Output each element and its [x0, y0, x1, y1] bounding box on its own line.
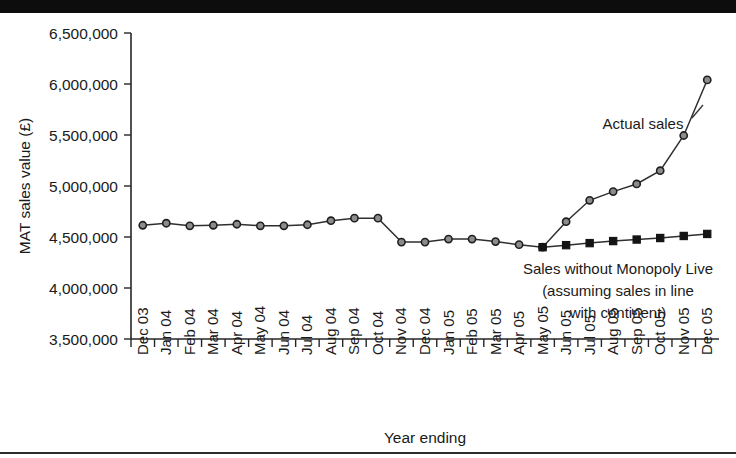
data-point-marker — [280, 222, 287, 229]
x-tick-label: Jun 04 — [275, 310, 292, 355]
y-tick-label: 3,500,000 — [49, 331, 118, 348]
annotation-counterfactual-line-3: with continent) — [569, 304, 667, 321]
x-tick-label: Apr 05 — [510, 311, 527, 355]
data-point-marker — [680, 232, 687, 239]
series-lines — [143, 80, 707, 247]
data-point-marker — [586, 197, 593, 204]
data-point-marker — [351, 215, 358, 222]
data-point-marker — [257, 222, 264, 229]
data-point-marker — [186, 222, 193, 229]
x-tick-label: Sep 04 — [345, 307, 362, 355]
x-tick-label: Mar 05 — [487, 308, 504, 355]
data-point-marker — [704, 76, 711, 83]
y-tick-label: 5,000,000 — [49, 178, 118, 195]
bottom-rule — [0, 452, 736, 454]
data-point-marker — [163, 220, 170, 227]
data-point-marker — [610, 188, 617, 195]
y-tick-label: 4,000,000 — [49, 280, 118, 297]
x-tick-label: Nov 04 — [392, 307, 409, 355]
x-tick-label: Feb 04 — [181, 308, 198, 355]
data-point-marker — [421, 239, 428, 246]
y-tick-label: 6,500,000 — [49, 25, 118, 42]
x-tick-label: Dec 03 — [134, 307, 151, 355]
data-point-marker — [374, 215, 381, 222]
data-point-marker — [139, 222, 146, 229]
chart-figure: 3,500,0004,000,0004,500,0005,000,0005,50… — [0, 0, 736, 458]
y-axis-title: MAT sales value (£) — [16, 118, 33, 254]
data-point-marker — [304, 221, 311, 228]
y-tick-label: 6,000,000 — [49, 76, 118, 93]
x-tick-label: May 05 — [534, 306, 551, 355]
data-point-marker — [586, 240, 593, 247]
y-tick-label: 5,500,000 — [49, 127, 118, 144]
annotation-counterfactual-line-2: (assuming sales in line — [542, 282, 694, 299]
data-point-marker — [398, 239, 405, 246]
x-tick-label: Nov 05 — [675, 307, 692, 355]
data-point-marker — [633, 236, 640, 243]
x-tick-label: Mar 04 — [204, 308, 221, 355]
annotation-actual-sales: Actual sales — [603, 115, 684, 132]
x-tick-label: Dec 05 — [698, 307, 715, 355]
x-tick-label: Jan 04 — [157, 310, 174, 355]
x-tick-label: Aug 04 — [322, 307, 339, 355]
data-point-marker — [539, 244, 546, 251]
data-point-marker — [468, 235, 475, 242]
y-axis-tick-labels: 3,500,0004,000,0004,500,0005,000,0005,50… — [49, 25, 118, 348]
y-axis-ticks — [124, 33, 131, 339]
chart-plot-area: 3,500,0004,000,0004,500,0005,000,0005,50… — [0, 0, 736, 458]
x-tick-label: May 04 — [251, 306, 268, 355]
x-tick-label: Jul 04 — [298, 315, 315, 355]
data-point-marker — [327, 217, 334, 224]
data-point-marker — [445, 235, 452, 242]
data-point-marker — [515, 241, 522, 248]
y-tick-label: 4,500,000 — [49, 229, 118, 246]
x-tick-label: Feb 05 — [463, 308, 480, 355]
data-point-marker — [233, 221, 240, 228]
data-point-marker — [563, 242, 570, 249]
series-line-circle — [143, 80, 707, 247]
data-point-marker — [633, 180, 640, 187]
data-point-marker — [657, 167, 664, 174]
x-tick-label: Oct 04 — [369, 311, 386, 355]
data-point-marker — [610, 237, 617, 244]
x-tick-label: Jan 05 — [440, 310, 457, 355]
data-point-marker — [704, 230, 711, 237]
data-point-marker — [492, 238, 499, 245]
annotation-counterfactual-line-1: Sales without Monopoly Live — [523, 260, 713, 277]
x-tick-label: Dec 04 — [416, 307, 433, 355]
data-point-marker — [657, 234, 664, 241]
data-point-marker — [680, 132, 687, 139]
x-tick-label: Apr 04 — [228, 311, 245, 355]
x-axis-title: Year ending — [384, 429, 466, 446]
data-point-marker — [210, 222, 217, 229]
data-point-marker — [563, 218, 570, 225]
